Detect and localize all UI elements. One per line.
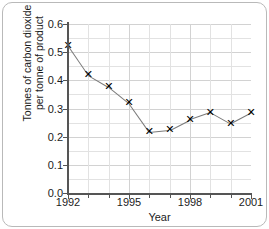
plot-area: ✕✕✕✕✕✕✕✕✕✕ bbox=[68, 24, 251, 193]
x-axis-tick bbox=[149, 195, 150, 198]
y-axis-title: Tonnes of carbon dioxide per tonne of pr… bbox=[21, 0, 45, 138]
x-axis-tick bbox=[251, 195, 252, 199]
y-axis-title-line-2: per tonne of product bbox=[33, 0, 45, 138]
data-series-co2: ✕✕✕✕✕✕✕✕✕✕ bbox=[68, 24, 251, 193]
x-axis-tick bbox=[109, 195, 110, 198]
y-axis-tick-label: 0.5 bbox=[48, 47, 63, 58]
x-axis-tick bbox=[88, 195, 89, 198]
y-axis-tick-label: 0.2 bbox=[48, 131, 63, 142]
x-axis-tick bbox=[68, 195, 69, 199]
x-axis-tick bbox=[129, 195, 130, 199]
data-point-marker: ✕ bbox=[226, 119, 235, 128]
y-axis-tick-label: 0.3 bbox=[48, 103, 63, 114]
data-point-marker: ✕ bbox=[165, 125, 174, 134]
chart-figure: 0.00.10.20.30.40.50.6 Tonnes of carbon d… bbox=[2, 2, 267, 227]
data-point-marker: ✕ bbox=[247, 108, 256, 117]
data-point-marker: ✕ bbox=[125, 98, 134, 107]
data-point-marker: ✕ bbox=[145, 127, 154, 136]
y-axis-line bbox=[67, 22, 69, 195]
data-point-marker: ✕ bbox=[104, 82, 113, 91]
y-axis-tick-label: 0.1 bbox=[48, 159, 63, 170]
x-axis-tick bbox=[210, 195, 211, 198]
y-axis-tick-label: 0.6 bbox=[48, 19, 63, 30]
x-axis-tick bbox=[231, 195, 232, 198]
y-axis-title-line-1: Tonnes of carbon dioxide bbox=[21, 0, 33, 138]
x-axis-line bbox=[67, 193, 252, 195]
x-axis-tick bbox=[170, 195, 171, 198]
x-axis-tick bbox=[190, 195, 191, 199]
y-axis-tick-label: 0.4 bbox=[48, 75, 63, 86]
data-point-marker: ✕ bbox=[186, 115, 195, 124]
data-point-marker: ✕ bbox=[206, 108, 215, 117]
data-point-marker: ✕ bbox=[84, 70, 93, 79]
x-axis-title: Year bbox=[68, 212, 251, 223]
